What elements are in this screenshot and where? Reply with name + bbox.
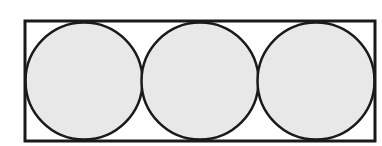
figure-canvas [0,0,382,146]
circle-middle [142,23,259,140]
circle-left [26,23,143,140]
geometry-figure [0,0,382,146]
circle-right [258,23,375,140]
